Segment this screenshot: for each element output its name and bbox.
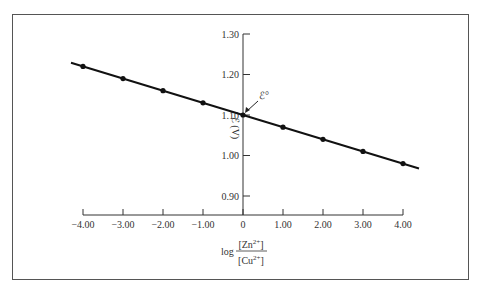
x-label-log: log bbox=[221, 246, 234, 257]
data-point bbox=[80, 64, 85, 69]
data-point bbox=[280, 125, 285, 130]
data-point bbox=[200, 100, 205, 105]
data-point bbox=[120, 76, 125, 81]
y-tick-label: 0.90 bbox=[222, 191, 240, 202]
x-tick-label: 1.00 bbox=[274, 219, 292, 230]
x-axis-label: log [Zn2+] [Cu2+] bbox=[221, 238, 267, 266]
x-tick-label: −3.00 bbox=[111, 219, 134, 230]
x-tick-label: 2.00 bbox=[314, 219, 332, 230]
x-tick-label: −4.00 bbox=[71, 219, 94, 230]
x-tick-label: 0 bbox=[241, 219, 246, 230]
y-tick-label: 1.30 bbox=[222, 29, 240, 40]
x-label-denominator: [Cu2+] bbox=[238, 254, 264, 266]
chart-svg: −4.00−3.00−2.00−1.0001.002.003.004.00 1.… bbox=[0, 0, 477, 293]
y-axis-label: ℰ (V) bbox=[229, 117, 241, 139]
data-point bbox=[160, 88, 165, 93]
arrow-head-icon bbox=[245, 107, 250, 113]
e-zero-annotation: ℰ° bbox=[259, 90, 269, 101]
data-point bbox=[400, 161, 405, 166]
y-tick-label: 1.00 bbox=[222, 150, 240, 161]
x-ticks: −4.00−3.00−2.00−1.0001.002.003.004.00 bbox=[71, 209, 411, 230]
x-tick-label: 4.00 bbox=[394, 219, 412, 230]
data-point bbox=[360, 149, 365, 154]
x-tick-label: −1.00 bbox=[191, 219, 214, 230]
x-label-numerator: [Zn2+] bbox=[238, 238, 263, 250]
x-tick-label: 3.00 bbox=[354, 219, 372, 230]
x-tick-label: −2.00 bbox=[151, 219, 174, 230]
y-tick-label: 1.20 bbox=[222, 69, 240, 80]
data-point bbox=[320, 137, 325, 142]
